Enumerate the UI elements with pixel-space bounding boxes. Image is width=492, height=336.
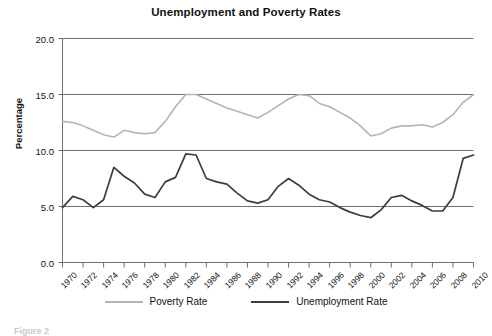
legend-entry-unemployment-rate: Unemployment Rate bbox=[251, 296, 387, 307]
y-axis-tick-marks bbox=[59, 39, 63, 263]
legend-label-unemployment-rate: Unemployment Rate bbox=[296, 296, 387, 307]
legend-label-poverty-rate: Poverty Rate bbox=[150, 296, 208, 307]
figure-caption: Figure 2 bbox=[14, 326, 49, 336]
legend-line-swatch-poverty-icon bbox=[105, 301, 143, 303]
x-axis-tick-marks bbox=[63, 263, 474, 268]
gridlines bbox=[63, 39, 474, 263]
legend-entry-poverty-rate: Poverty Rate bbox=[105, 296, 208, 307]
figure-container: Unemployment and Poverty Rates Percentag… bbox=[0, 0, 492, 336]
chart-legend: Poverty Rate Unemployment Rate bbox=[0, 296, 492, 307]
data-series-lines bbox=[63, 95, 474, 218]
legend-line-swatch-unemployment-icon bbox=[251, 301, 289, 303]
